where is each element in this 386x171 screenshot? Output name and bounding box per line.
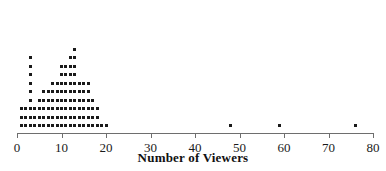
x-axis-tick [62,133,63,138]
x-axis-tick [373,133,374,138]
x-axis-tick [284,133,285,138]
x-axis-tick [17,133,18,138]
dot-plot-figure: 01020304050607080 Number of Viewers [0,0,386,171]
x-axis: 01020304050607080 [0,0,386,171]
x-axis-tick [329,133,330,138]
x-axis-tick [240,133,241,138]
x-axis-tick [106,133,107,138]
x-axis-title: Number of Viewers [0,150,386,166]
x-axis-tick [151,133,152,138]
x-axis-tick [195,133,196,138]
